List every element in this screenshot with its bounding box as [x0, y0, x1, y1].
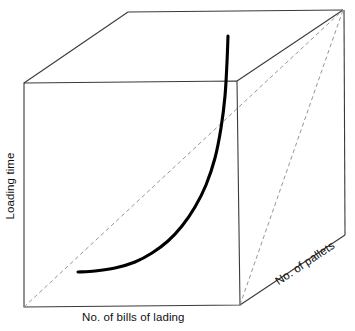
top-left-receding-edge	[24, 12, 128, 83]
cube-wireframe	[0, 0, 355, 331]
top-right-receding-edge	[237, 10, 343, 81]
dashed-right-face-diagonal	[240, 10, 343, 305]
loading-time-curve	[78, 36, 228, 272]
x-axis-label: No. of bills of lading	[82, 311, 185, 323]
y-axis-label: Loading time	[4, 152, 16, 219]
front-face-outline	[24, 81, 240, 307]
top-back-edge	[128, 10, 343, 12]
back-right-vertical-edge	[344, 10, 345, 235]
three-d-axes-diagram: Loading time No. of bills of lading No. …	[0, 0, 355, 331]
